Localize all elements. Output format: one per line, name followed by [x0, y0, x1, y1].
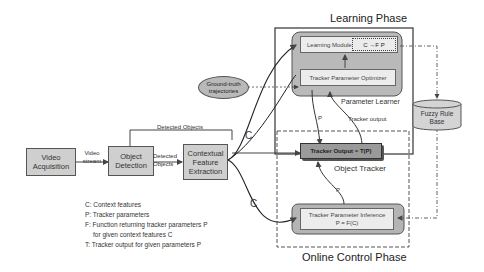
learning-module-label: Learning Module — [307, 42, 352, 48]
p-learner-label: P — [318, 115, 322, 121]
fuzzy-rule-base-node: Fuzzy Rule Base — [414, 108, 460, 128]
inference-title: Tracker Parameter Inference — [309, 211, 385, 219]
video-stream-label: Video stream — [80, 149, 104, 165]
tracker-output-feedback-label: Tracker output — [348, 116, 386, 122]
ground-truth-node: Ground-truth trajectories — [198, 76, 249, 99]
legend-item: for given context features C — [85, 230, 207, 240]
online-control-phase-title: Online Control Phase — [302, 251, 407, 263]
tracker-parameter-optimizer-node: Tracker Parameter Optimizer — [300, 69, 396, 86]
learning-phase-title: Learning Phase — [330, 12, 407, 24]
p-inference-label: P — [336, 187, 340, 193]
video-acquisition-node: Video Acquisition — [26, 148, 76, 176]
connector-lines — [0, 0, 484, 272]
legend-item: T: Tracker output for given parameters P — [85, 240, 207, 250]
legend-item: C: Context features — [85, 200, 207, 210]
legend: C: Context features P: Tracker parameter… — [85, 200, 207, 250]
object-tracker-label: Object Tracker — [334, 164, 386, 173]
c-lower-label: C — [250, 198, 257, 209]
legend-item: P: Tracker parameters — [85, 210, 207, 220]
learning-function: C →F P — [352, 38, 396, 51]
legend-item: F: Function returning tracker parameters… — [85, 220, 207, 230]
contextual-feature-extraction-node: Contextual Feature Extraction — [183, 144, 228, 180]
c-upper-label: C — [245, 130, 252, 141]
detected-objects-mid-label: Detected Objects — [153, 152, 181, 168]
inference-formula: P = F(C) — [336, 219, 359, 227]
detected-objects-top-label: Detected Objects — [157, 124, 203, 130]
object-detection-node: Object Detection — [108, 146, 154, 176]
parameter-learner-label: Parameter Learner — [341, 98, 400, 105]
tracker-parameter-inference-node: Tracker Parameter Inference P = F(C) — [300, 208, 394, 230]
tracker-output-node: Tracker Output = T(P) — [300, 143, 382, 159]
